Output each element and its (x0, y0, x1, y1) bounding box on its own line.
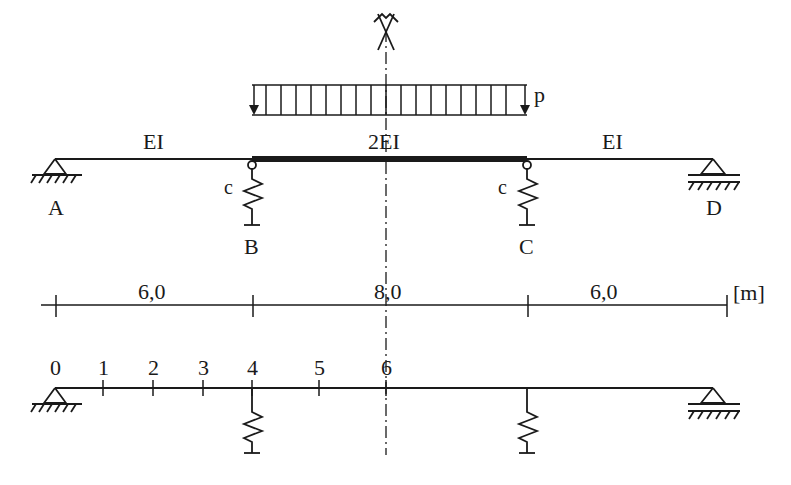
node-label: 1 (98, 357, 109, 379)
stiffness-label-bc: 2EI (368, 131, 400, 153)
unit-label: [m] (733, 282, 765, 304)
stiffness-label-cd: EI (602, 131, 623, 153)
beam-diagram (0, 0, 791, 485)
spring-support-icon (519, 388, 537, 453)
span-length-bc: 8,0 (374, 281, 402, 303)
spring-label-c: c (498, 177, 507, 197)
node-label: 4 (247, 357, 258, 379)
support-label-c: C (519, 236, 534, 258)
spring-support-icon (244, 388, 262, 453)
span-length-ab: 6,0 (138, 281, 166, 303)
roller-support-icon (688, 388, 740, 419)
spring-label-b: c (224, 177, 233, 197)
load-arrow-left (249, 105, 259, 115)
symmetry-icon (374, 14, 398, 50)
roller-support-icon (688, 159, 740, 190)
span-length-cd: 6,0 (590, 281, 618, 303)
pinned-support-icon (31, 159, 82, 183)
load-label: p (534, 84, 545, 106)
support-label-a: A (48, 197, 64, 219)
support-label-b: B (244, 236, 259, 258)
load-arrow-right (520, 105, 530, 115)
spring-support-icon (244, 161, 262, 225)
support-label-d: D (706, 197, 722, 219)
node-label: 5 (314, 357, 325, 379)
node-label: 0 (50, 357, 61, 379)
node-label: 2 (148, 357, 159, 379)
pinned-support-icon (31, 388, 82, 412)
spring-support-icon (519, 161, 537, 225)
node-label: 6 (381, 357, 392, 379)
stiffness-label-ab: EI (143, 131, 164, 153)
node-label: 3 (198, 357, 209, 379)
distributed-load (252, 85, 527, 115)
